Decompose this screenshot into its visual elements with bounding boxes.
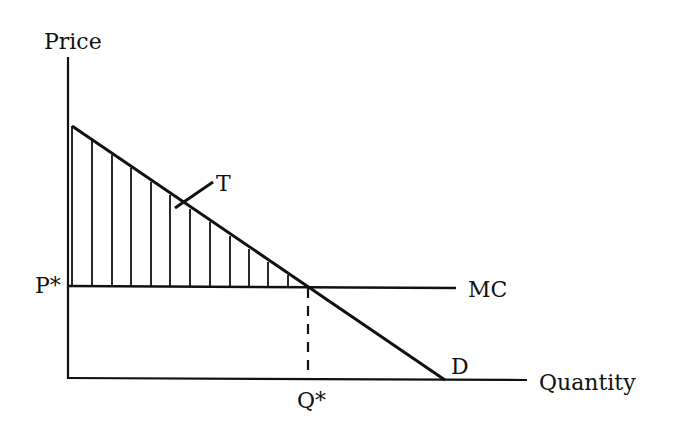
equilibrium-price-label: P* [35, 273, 61, 298]
area-t-label: T [216, 171, 231, 196]
mc-label: MC [468, 277, 507, 302]
y-axis-label: Price [44, 29, 102, 54]
demand-label: D [451, 354, 469, 379]
mc-line [68, 286, 456, 288]
t-pointer-line [175, 182, 213, 208]
x-axis-label: Quantity [539, 370, 636, 395]
equilibrium-quantity-label: Q* [297, 388, 326, 413]
demand-curve [72, 126, 445, 380]
economics-diagram: Price Quantity MC D P* Q* T [0, 0, 683, 443]
